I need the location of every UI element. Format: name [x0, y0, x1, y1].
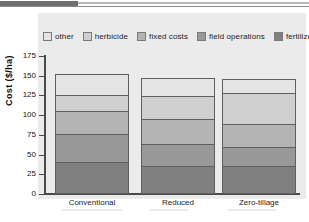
y-tick-label: 50 [27, 150, 36, 159]
y-tick-label: 150 [23, 71, 36, 80]
y-tick-label: 0 [32, 189, 36, 198]
bar-segment-fertilizer[interactable] [141, 166, 215, 194]
y-tick-label: 100 [23, 110, 36, 119]
bar-segment-fertilizer[interactable] [222, 166, 296, 194]
bar-segment-other[interactable] [55, 74, 129, 95]
bar-group-zero-tillage[interactable] [222, 56, 296, 194]
chart-figure: otherherbicidefixed costsfield operation… [0, 9, 309, 209]
scan-smudge [228, 209, 276, 211]
bar-segment-herbicide[interactable] [141, 96, 215, 119]
bar-group-reduced[interactable] [141, 56, 215, 194]
bar-segment-herbicide[interactable] [222, 93, 296, 124]
x-axis-label-reduced: Reduced [141, 198, 215, 207]
bar-segment-fixed-costs[interactable] [55, 111, 129, 134]
plot-area [46, 56, 298, 194]
bar-segment-field-operations[interactable] [55, 134, 129, 162]
x-axis-label-zero-tillage: Zero-tillage [222, 198, 296, 207]
y-tick-label: 175 [23, 51, 36, 60]
scan-smudge [150, 209, 188, 211]
bar-segment-herbicide[interactable] [55, 95, 129, 112]
bar-segment-field-operations[interactable] [141, 144, 215, 167]
bar-segment-fixed-costs[interactable] [222, 124, 296, 147]
bar-segment-other[interactable] [222, 79, 296, 93]
bar-segment-fertilizer[interactable] [55, 162, 129, 194]
y-tick-label: 125 [23, 90, 36, 99]
bar-segment-fixed-costs[interactable] [141, 119, 215, 143]
y-tick-label: 25 [27, 169, 36, 178]
y-tick-label: 75 [27, 130, 36, 139]
scan-artifact-rule [0, 6, 309, 7]
scan-smudge [62, 209, 122, 211]
bar-segment-other[interactable] [141, 78, 215, 96]
bar-group-conventional[interactable] [55, 56, 129, 194]
scan-artifact-bar [78, 2, 309, 4]
x-axis-label-conventional: Conventional [55, 198, 129, 207]
bar-segment-field-operations[interactable] [222, 147, 296, 166]
